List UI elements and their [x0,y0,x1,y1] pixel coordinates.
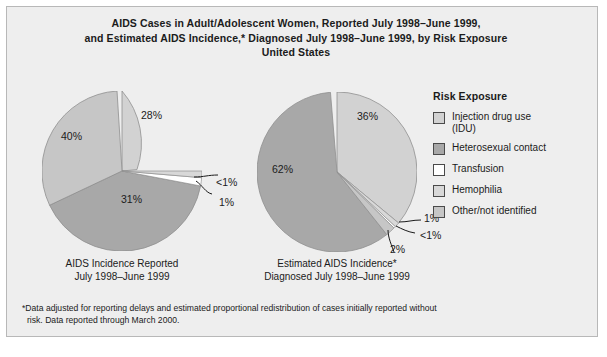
leader-line-reported-hemophilia [196,181,212,194]
legend-item-idu[interactable]: Injection drug use (IDU) [433,111,603,134]
footnote-line-1: *Data adjusted for reporting delays and … [22,303,492,315]
legend-swatch-heterosexual [433,143,445,155]
chart-title-line-2: and Estimated AIDS Incidence,* Diagnosed… [30,31,562,46]
caption-estimated-line-1: Estimated AIDS Incidence* [237,257,437,270]
legend-title: Risk Exposure [433,90,603,102]
leader-line-estimated-transfusion [396,226,415,233]
slice-label-reported-idu: 28% [141,109,162,121]
legend-swatch-transfusion [433,164,445,176]
chart-title-line-1: AIDS Cases in Adult/Adolescent Women, Re… [30,16,562,31]
slice-label-estimated-transfusion: <1% [420,229,441,241]
footnote: *Data adjusted for reporting delays and … [22,303,492,326]
slice-label-estimated-heterosexual: 62% [272,163,293,175]
slice-label-reported-transfusion: <1% [216,176,237,188]
pie-chart-reported-svg [42,91,202,251]
legend-item-transfusion[interactable]: Transfusion [433,163,603,176]
caption-reported-line-1: AIDS Incidence Reported [42,257,202,270]
leader-line-reported-transfusion [194,175,218,177]
leader-line-estimated-hemophilia [399,220,421,222]
slice-label-reported-other: 31% [121,193,142,205]
legend-swatch-idu [433,112,445,124]
legend-swatch-other [433,206,445,218]
legend: Risk Exposure Injection drug use (IDU) H… [433,90,603,226]
legend-item-other[interactable]: Other/not identified [433,205,603,218]
caption-reported: AIDS Incidence Reported July 1998–June 1… [42,257,202,283]
legend-swatch-hemophilia [433,185,445,197]
legend-label-other: Other/not identified [452,205,537,217]
slice-label-estimated-idu: 36% [357,110,378,122]
pie-chart-reported [42,91,202,251]
legend-item-hemophilia[interactable]: Hemophilia [433,184,603,197]
legend-label-idu: Injection drug use (IDU) [452,111,531,134]
footnote-line-2: risk. Data reported through March 2000. [22,315,492,327]
caption-estimated-line-2: Diagnosed July 1998–June 1999 [237,270,437,283]
legend-label-heterosexual: Heterosexual contact [452,142,546,154]
slice-label-reported-heterosexual: 40% [61,130,82,142]
legend-item-heterosexual[interactable]: Heterosexual contact [433,142,603,155]
figure-root: AIDS Cases in Adult/Adolescent Women, Re… [0,0,607,357]
legend-label-transfusion: Transfusion [452,163,504,175]
chart-title: AIDS Cases in Adult/Adolescent Women, Re… [30,16,562,60]
caption-reported-line-2: July 1998–June 1999 [42,270,202,283]
slice-reported-idu[interactable] [122,91,141,171]
caption-estimated: Estimated AIDS Incidence* Diagnosed July… [237,257,437,283]
slice-label-reported-hemophilia: 1% [219,196,234,208]
legend-label-hemophilia: Hemophilia [452,184,502,196]
slice-label-estimated-other: 2% [390,243,405,255]
chart-title-line-3: United States [30,45,562,60]
